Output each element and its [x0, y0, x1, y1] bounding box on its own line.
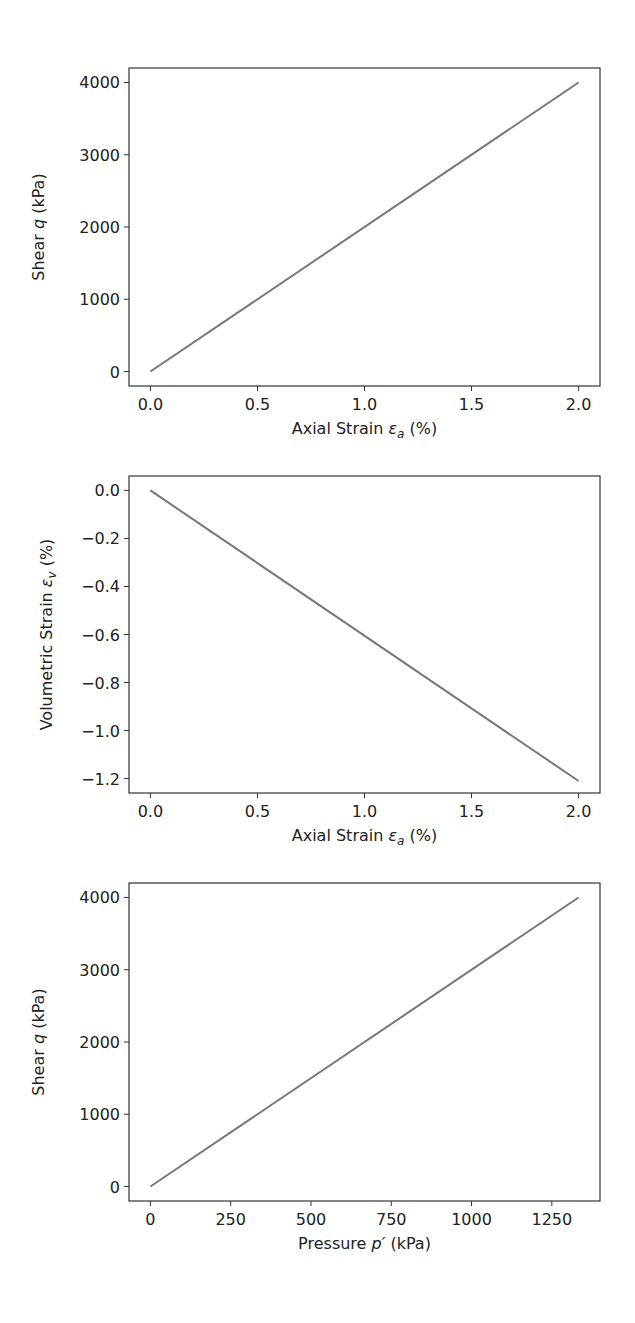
x-tick-label: 0.0: [138, 802, 163, 821]
data-line: [150, 82, 578, 371]
x-tick-label: 0.5: [245, 802, 270, 821]
y-tick-label: 2000: [79, 1033, 120, 1052]
volumetric-vs-axial-strain-chart: 0.00.51.01.52.00.0−0.2−0.4−0.6−0.8−1.0−1…: [37, 476, 600, 848]
x-tick-label: 1.0: [352, 395, 377, 414]
figure: 0.00.51.01.52.001000200030004000Axial St…: [0, 0, 635, 1323]
x-tick-label: 250: [215, 1210, 246, 1229]
y-axis-label: Volumetric Strain εv (%): [37, 539, 59, 731]
x-tick-label: 2.0: [566, 395, 591, 414]
x-axis-label: Axial Strain εa (%): [292, 419, 437, 441]
y-tick-label: −1.0: [81, 722, 120, 741]
x-tick-label: 500: [296, 1210, 327, 1229]
y-tick-label: 4000: [79, 73, 120, 92]
y-axis-label: Shear q (kPa): [29, 988, 48, 1095]
x-tick-label: 0: [145, 1210, 155, 1229]
x-tick-label: 1000: [451, 1210, 492, 1229]
data-line: [150, 490, 578, 781]
y-tick-label: 0: [110, 1178, 120, 1197]
x-tick-label: 0.0: [138, 395, 163, 414]
y-tick-label: 0: [110, 363, 120, 382]
x-tick-label: 2.0: [566, 802, 591, 821]
x-axis-label: Pressure p′ (kPa): [298, 1234, 431, 1253]
y-axis-label: Shear q (kPa): [29, 173, 48, 280]
y-tick-label: 4000: [79, 888, 120, 907]
y-tick-label: 1000: [79, 290, 120, 309]
x-tick-label: 1.0: [352, 802, 377, 821]
y-tick-label: 0.0: [95, 481, 120, 500]
y-tick-label: 3000: [79, 961, 120, 980]
y-tick-label: −1.2: [81, 770, 120, 789]
y-tick-label: 2000: [79, 218, 120, 237]
shear-vs-pressure-chart: 02505007501000125001000200030004000Press…: [29, 883, 600, 1253]
x-tick-label: 1.5: [459, 395, 484, 414]
y-tick-label: −0.8: [81, 674, 120, 693]
y-tick-label: −0.4: [81, 577, 120, 596]
x-axis-label: Axial Strain εa (%): [292, 826, 437, 848]
data-line: [150, 897, 578, 1186]
x-tick-label: 0.5: [245, 395, 270, 414]
x-tick-label: 750: [376, 1210, 407, 1229]
x-tick-label: 1.5: [459, 802, 484, 821]
y-tick-label: 3000: [79, 146, 120, 165]
shear-vs-axial-strain-chart: 0.00.51.01.52.001000200030004000Axial St…: [29, 68, 600, 441]
y-tick-label: −0.2: [81, 529, 120, 548]
y-tick-label: −0.6: [81, 626, 120, 645]
x-tick-label: 1250: [531, 1210, 572, 1229]
y-tick-label: 1000: [79, 1105, 120, 1124]
